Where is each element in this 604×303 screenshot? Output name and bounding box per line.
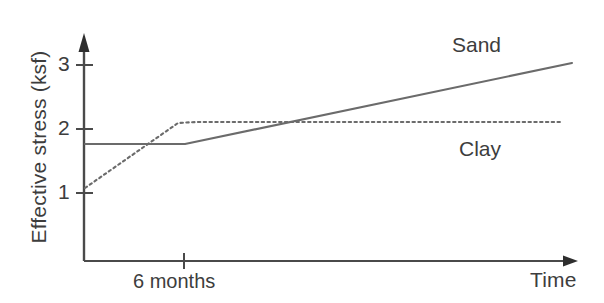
chart-canvas (0, 0, 604, 303)
y-tick-label-3: 3 (58, 52, 70, 76)
x-axis-title: Time (530, 268, 577, 292)
series-label-clay: Clay (459, 137, 501, 161)
y-axis-arrow-icon (79, 33, 90, 52)
y-tick-label-2: 2 (58, 116, 70, 140)
series-label-sand: Sand (452, 33, 501, 57)
x-tick-label-6-months: 6 months (133, 270, 215, 293)
series-line-sand (85, 63, 572, 144)
x-axis-arrow-icon (563, 256, 578, 267)
y-axis-title: Effective stress (ksf) (27, 22, 51, 272)
y-tick-label-1: 1 (58, 180, 70, 204)
chart-figure: Effective stress (ksf) Time 3 2 1 6 mont… (0, 0, 604, 303)
